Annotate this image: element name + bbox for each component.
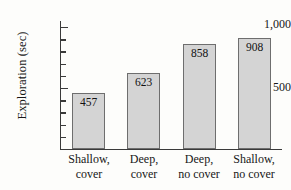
bar: 858	[183, 44, 216, 149]
x-axis-category-label-line2: no cover	[217, 167, 291, 182]
x-axis-category-label: Shallow,no cover	[217, 152, 291, 182]
x-axis-category-label-line1: Shallow,	[217, 152, 291, 167]
bar: 623	[127, 73, 160, 149]
y-axis-title: Exploration (sec)	[15, 12, 30, 140]
bar-value-label: 908	[239, 41, 270, 53]
bar-chart-figure: Exploration (sec) 1,000 500 457623858908…	[0, 0, 291, 190]
x-axis-category-labels: Shallow,coverDeep,coverDeep,no coverShal…	[61, 152, 282, 186]
bar: 457	[72, 93, 105, 149]
bar: 908	[238, 38, 271, 149]
plot-area: 457623858908	[61, 21, 282, 149]
bar-value-label: 858	[184, 47, 215, 59]
bar-value-label: 623	[128, 76, 159, 88]
bar-value-label: 457	[73, 96, 104, 108]
